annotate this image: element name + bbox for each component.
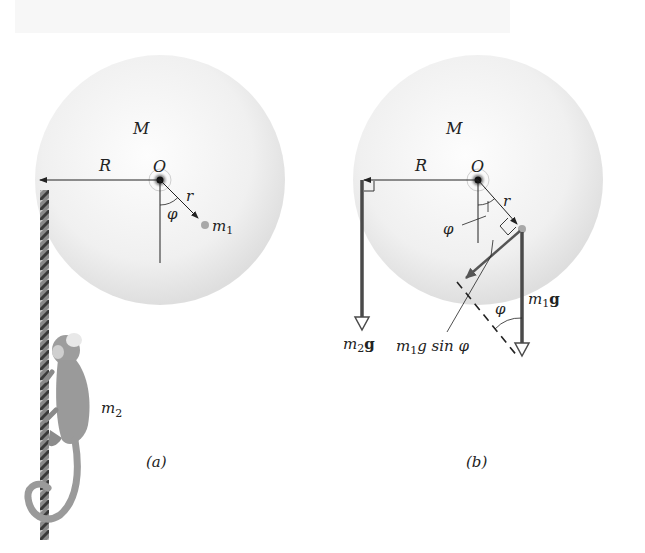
label-phi-bottom-b: φ [495, 300, 506, 318]
label-R-a: R [98, 156, 111, 175]
force-m1g-head [515, 343, 529, 356]
label-r-b: r [503, 192, 511, 210]
physics-diagram: M O R r φ m1 m2 (a) [0, 0, 645, 553]
label-phi-b: φ [443, 220, 454, 238]
label-O-a: O [153, 157, 166, 176]
label-m1gsinphi: m1g sin φ [396, 337, 470, 357]
label-O-b: O [471, 157, 484, 176]
label-r-a: r [186, 187, 194, 205]
label-m1g: m1g [528, 290, 560, 310]
panel-b: M O R r φ φ m2g m1g m1g sin φ (b) [343, 55, 603, 471]
force-m2g-head [355, 317, 369, 330]
particle-m1-a [201, 221, 209, 229]
label-M-a: M [132, 119, 150, 138]
label-m2g: m2g [343, 335, 375, 355]
label-M-b: M [445, 119, 463, 138]
monkey-m2 [28, 333, 90, 519]
caption-a: (a) [146, 453, 167, 471]
phi-arc-bottom-b [495, 318, 522, 329]
caption-b: (b) [466, 453, 487, 471]
label-phi-a: φ [167, 205, 178, 223]
panel-a: M O R r φ m1 m2 (a) [28, 55, 285, 540]
label-R-b: R [414, 156, 427, 175]
label-m2-a: m2 [101, 399, 122, 420]
